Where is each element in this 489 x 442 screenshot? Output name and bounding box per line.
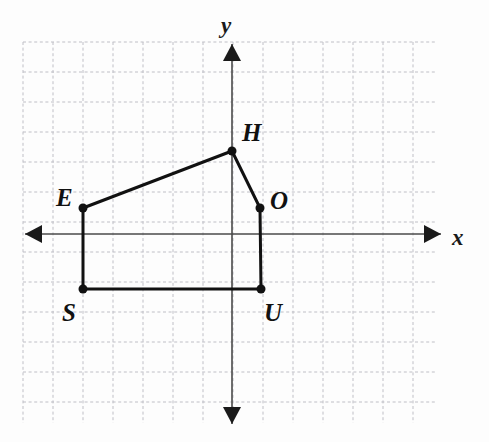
vertex-dots-layer — [79, 147, 266, 294]
vertex-dot-u — [257, 285, 266, 294]
y-axis-arrow-down — [223, 407, 241, 424]
x-axis-arrow-right — [424, 225, 441, 243]
x-axis-label: x — [452, 226, 464, 249]
x-axis-arrow-left — [25, 225, 42, 243]
vertex-dot-e — [79, 204, 88, 213]
vertex-label-s: S — [62, 300, 76, 325]
vertex-label-o: O — [270, 188, 288, 213]
vertex-dot-s — [79, 285, 88, 294]
y-axis-arrow-up — [223, 44, 241, 61]
polygon-outline — [83, 151, 261, 289]
y-axis-label: y — [221, 14, 231, 37]
vertex-dot-h — [228, 147, 237, 156]
vertex-dot-o — [256, 204, 265, 213]
coordinate-plane-figure: y x H O U S E — [0, 0, 489, 442]
polygon-house — [83, 151, 261, 289]
figure-canvas — [0, 0, 489, 442]
vertex-label-e: E — [56, 185, 73, 210]
vertex-label-u: U — [264, 300, 282, 325]
vertex-label-h: H — [242, 120, 261, 145]
grid-layer — [23, 42, 437, 423]
